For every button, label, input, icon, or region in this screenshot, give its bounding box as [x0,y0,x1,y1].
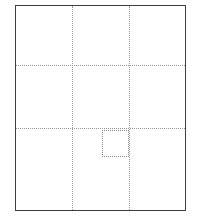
grid-guide-horizontal-1 [16,65,185,66]
crop-frame[interactable] [15,5,186,211]
grid-guide-horizontal-2 [16,128,185,129]
focus-selection-box[interactable] [102,130,129,157]
grid-guide-vertical-2 [129,6,130,210]
rule-of-thirds-grid-overlay [16,6,185,210]
grid-guide-vertical-1 [72,6,73,210]
canvas-stage: rule-of-thirds grid selection square [0,0,197,224]
